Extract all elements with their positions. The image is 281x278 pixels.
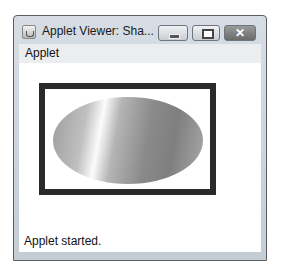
maximize-button[interactable]: [192, 25, 220, 41]
minimize-button[interactable]: [158, 25, 188, 41]
status-text: Applet started.: [24, 234, 101, 248]
window-title: Applet Viewer: Sha...: [42, 24, 154, 38]
java-cup-icon[interactable]: [22, 25, 36, 39]
title-bar[interactable]: Applet Viewer: Sha... ✕: [14, 16, 266, 44]
gradient-ellipse-shape: [53, 97, 203, 184]
menu-bar: Applet: [19, 44, 261, 63]
applet-canvas: Applet started.: [19, 63, 261, 252]
close-button[interactable]: ✕: [224, 25, 256, 41]
maximize-icon: [202, 29, 214, 39]
applet-viewer-window: Applet Viewer: Sha... ✕ Applet Applet st…: [13, 15, 267, 261]
minimize-icon: [169, 34, 180, 39]
close-icon: ✕: [225, 26, 255, 40]
menu-applet[interactable]: Applet: [25, 46, 59, 60]
